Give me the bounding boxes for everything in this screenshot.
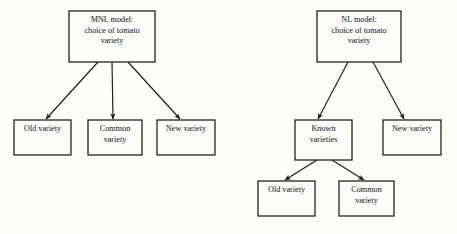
nl-new-variety-node: New variety [383,120,441,155]
nl-root-node: NL model:choice of tomatovariety [317,11,401,62]
mnl-common-variety-node-label-line: variety [104,135,128,144]
nl-known-varieties-node-label-line: varieties [310,135,338,144]
connector-arrow-nl-old [285,160,317,180]
nl-known-varieties-node: Knownvarieties [295,120,352,160]
mnl-old-variety-node-label-line: Old variety [24,124,62,133]
nl-common-variety-node-label-line: Common [351,185,381,194]
mnl-root-node-label-line: MNL model: [91,15,134,24]
connector-arrow-nl-common [332,160,364,180]
connector-arrow-mnl-new [128,62,180,119]
mnl-root-node-label-line: choice of tomato [84,26,139,35]
connector-arrow-mnl-common [112,62,113,119]
mnl-common-variety-node: Commonvariety [88,120,142,155]
nl-old-variety-node-label-line: Old variety [268,185,306,194]
nl-root-node-label-line: variety [348,36,372,45]
nl-old-variety-node: Old variety [258,181,315,216]
nl-root-node-label-line: choice of tomato [331,26,386,35]
mnl-new-variety-node: New variety [157,120,215,155]
mnl-root-node: MNL model:choice of tomatovariety [69,11,155,62]
nl-common-variety-node-label-line: variety [355,196,379,205]
connector-arrow-mnl-old [46,62,98,119]
mnl-common-variety-node-label-line: Common [100,124,130,133]
connector-arrow-nl-new [373,62,404,119]
mnl-root-node-label-line: variety [101,36,125,45]
diagram-canvas: MNL model:choice of tomatovarietyOld var… [0,0,457,234]
nl-known-varieties-node-label-line: Known [311,124,335,133]
tree-diagram-svg: MNL model:choice of tomatovarietyOld var… [0,0,457,234]
mnl-old-variety-node: Old variety [14,120,71,155]
nl-root-node-label-line: NL model: [341,15,376,24]
mnl-new-variety-node-label-line: New variety [166,124,207,133]
connector-arrow-nl-known [318,62,348,119]
nl-new-variety-node-label-line: New variety [392,124,433,133]
nl-common-variety-node: Commonvariety [339,181,394,216]
node-layer: MNL model:choice of tomatovarietyOld var… [14,11,441,216]
